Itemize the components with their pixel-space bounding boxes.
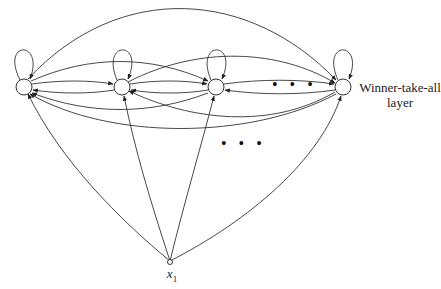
layer-label: Winner-take-all layer: [358, 80, 441, 110]
layer-label-line2: layer: [358, 95, 441, 110]
node-3: [208, 79, 224, 95]
input-node-x1: [168, 260, 173, 265]
ellipsis-bottom: • • •: [221, 135, 266, 153]
node-1: [16, 79, 32, 95]
self-loop-n4: [334, 50, 353, 80]
node-4: [335, 79, 351, 95]
self-loop-n2: [113, 50, 132, 80]
diagram: • • • • • • Winner-take-all layer x1: [0, 0, 441, 289]
ellipsis-top: • • •: [272, 76, 317, 94]
node-2: [114, 79, 130, 95]
self-loop-n3: [207, 50, 226, 80]
input-label-subscript: 1: [173, 274, 178, 284]
self-loop-n1: [15, 50, 33, 80]
layer-label-line1: Winner-take-all: [358, 80, 441, 95]
input-label: x1: [160, 266, 184, 287]
